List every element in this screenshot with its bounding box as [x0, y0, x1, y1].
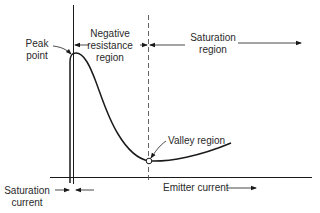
saturation-current-label-line1: Saturation	[4, 185, 50, 196]
peak-point-label-line1: Peak	[26, 38, 50, 49]
peak-point-label-line2: point	[26, 50, 48, 61]
valley-region-label: Valley region	[168, 135, 225, 146]
saturation-region-label-line2: region	[199, 44, 227, 55]
ujt-characteristic-diagram: Peak point Negative resistance region Sa…	[0, 0, 320, 213]
valley-point-marker	[146, 158, 152, 164]
saturation-current-label-line2: current	[11, 197, 42, 208]
saturation-region-label-line1: Saturation	[190, 32, 236, 43]
negative-resistance-label-line2: resistance	[87, 40, 133, 51]
valley-region-leader-arrow	[151, 141, 166, 158]
negative-resistance-label-line3: region	[96, 52, 124, 63]
peak-point-leader-arrow	[53, 46, 71, 54]
negative-resistance-label-line1: Negative	[90, 28, 130, 39]
emitter-current-label: Emitter current	[163, 182, 229, 193]
